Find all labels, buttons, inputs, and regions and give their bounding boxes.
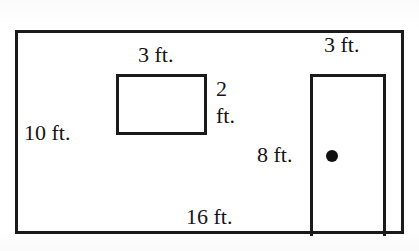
label-inner-height-unit: ft. <box>216 103 235 130</box>
inner-rectangle <box>116 74 207 135</box>
label-door-height: 8 ft. <box>257 144 292 166</box>
label-room-height: 10 ft. <box>24 122 70 144</box>
doorknob-dot <box>326 150 338 162</box>
label-door-width: 3 ft. <box>324 34 359 56</box>
label-inner-height: 2 ft. <box>216 76 235 130</box>
label-inner-height-value: 2 <box>216 76 227 103</box>
label-inner-width: 3 ft. <box>138 44 173 66</box>
label-room-width: 16 ft. <box>186 206 232 228</box>
geometry-diagram: 3 ft. 3 ft. 10 ft. 16 ft. 8 ft. 2 ft. <box>0 0 419 251</box>
door-opening <box>310 74 386 236</box>
